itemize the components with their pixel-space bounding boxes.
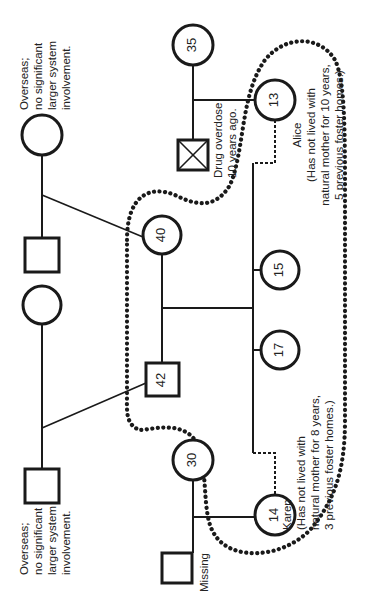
grandmother-bottom (23, 286, 61, 324)
genogram-diagram: 35 Drug overdose 10 years ago. 13 Alice … (0, 0, 369, 600)
svg-text:5 previous foster homes.): 5 previous foster homes.) (333, 70, 345, 200)
person-alice-13: 13 (255, 80, 295, 120)
person-35-female: 35 (173, 25, 213, 65)
svg-text:involvement.: involvement. (60, 510, 72, 575)
svg-text:no significant: no significant (32, 507, 44, 575)
svg-text:no significant: no significant (32, 42, 44, 110)
svg-text:15: 15 (271, 263, 286, 277)
svg-text:larger system: larger system (46, 41, 58, 110)
svg-text:17: 17 (271, 343, 286, 357)
svg-text:Drug overdose: Drug overdose (212, 103, 224, 178)
karen-note: Karen (Has not lived with natural mother… (281, 395, 335, 530)
person-30-female: 30 (173, 440, 213, 480)
person-deceased-male (178, 140, 208, 170)
grandfather-top (25, 238, 59, 272)
person-missing-male (162, 553, 192, 583)
grandparent-bottom-note: Overseas; no significant larger system i… (18, 506, 72, 575)
svg-text:involvement.: involvement. (60, 45, 72, 110)
svg-text:35: 35 (184, 38, 199, 52)
alice-note: Alice (Has not lived with natural mother… (291, 64, 345, 205)
svg-text:Alice: Alice (291, 123, 303, 148)
deceased-note: Drug overdose 10 years ago. (212, 103, 238, 178)
svg-text:Overseas;: Overseas; (18, 58, 30, 110)
svg-text:30: 30 (184, 453, 199, 467)
person-15: 15 (261, 251, 299, 289)
svg-text:40: 40 (153, 228, 168, 242)
person-40-mother: 40 (143, 216, 181, 254)
svg-text:(Has not lived with: (Has not lived with (295, 436, 307, 530)
svg-text:Overseas;: Overseas; (18, 523, 30, 575)
svg-text:42: 42 (153, 373, 168, 387)
svg-text:10 years ago.: 10 years ago. (226, 108, 238, 178)
svg-text:Karen: Karen (281, 499, 293, 530)
grandmother-top (22, 115, 62, 155)
svg-text:3 previous foster homes.): 3 previous foster homes.) (323, 400, 335, 530)
svg-text:larger system: larger system (46, 506, 58, 575)
person-42-father: 42 (146, 363, 179, 396)
svg-text:Missing: Missing (198, 553, 210, 592)
svg-text:natural mother for 10 years,: natural mother for 10 years, (319, 64, 331, 205)
grandparent-top-note: Overseas; no significant larger system i… (18, 41, 72, 110)
svg-text:13: 13 (266, 93, 281, 107)
person-17: 17 (261, 331, 299, 369)
svg-text:14: 14 (266, 508, 281, 522)
grandfather-bottom (25, 469, 59, 503)
missing-note: Missing (198, 553, 210, 592)
svg-text:(Has not lived with: (Has not lived with (305, 88, 317, 182)
svg-text:natural mother for 8 years,: natural mother for 8 years, (309, 395, 321, 530)
